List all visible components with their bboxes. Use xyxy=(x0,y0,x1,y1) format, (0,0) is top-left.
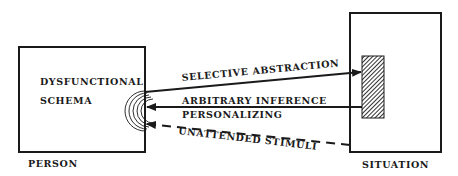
personalizing-label: PERSONALIZING xyxy=(182,109,283,120)
schema-label-line2: SCHEMA xyxy=(40,95,92,106)
cognitive-distortion-diagram: DYSFUNCTIONAL SCHEMA PERSON SITUATION SE… xyxy=(0,0,458,176)
selective-abstraction-label: SELECTIVE ABSTRACTION xyxy=(181,57,340,83)
situation-caption: SITUATION xyxy=(362,159,429,170)
person-caption: PERSON xyxy=(28,158,78,169)
situation-focus-hatched xyxy=(362,56,384,118)
arbitrary-inference-label: ARBITRARY INFERENCE xyxy=(181,95,327,106)
unattended-stimuli-label: UNATTENDED STIMULI xyxy=(178,125,318,152)
schema-label-line1: DYSFUNCTIONAL xyxy=(40,76,143,87)
